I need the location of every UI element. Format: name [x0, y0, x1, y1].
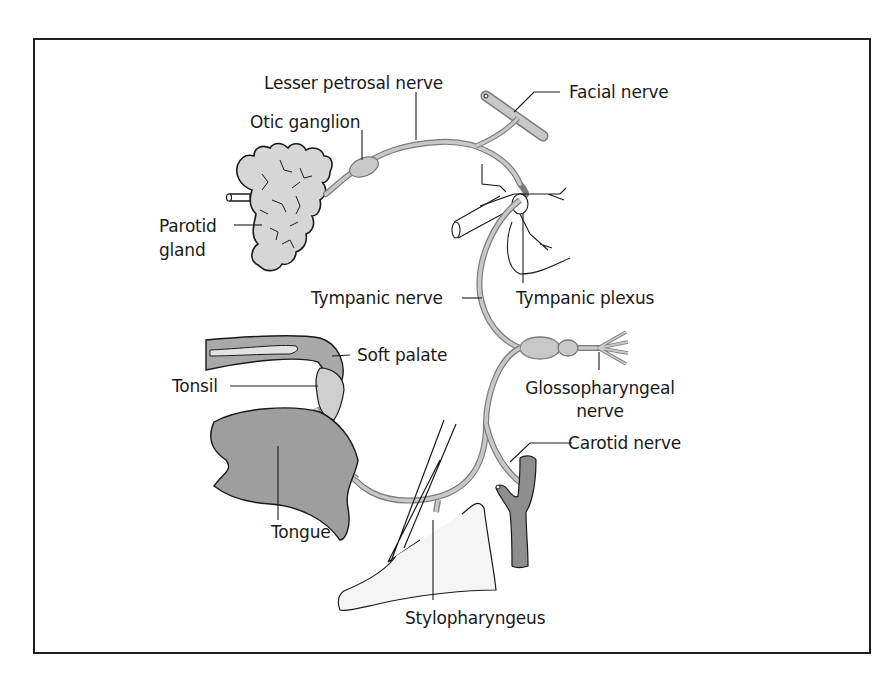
tympanic-plexus [452, 164, 570, 274]
label-tympanic-nerve: Tympanic nerve [311, 288, 443, 308]
label-soft-palate: Soft palate [357, 345, 447, 365]
lesser-petrosal-nerve [326, 142, 526, 196]
nerve-diagram [0, 0, 895, 689]
label-tongue: Tongue [271, 522, 331, 542]
tympanic-nerve [479, 200, 520, 348]
label-stylopharyngeus: Stylopharyngeus [405, 608, 545, 628]
label-glossopharyngeal-line2: nerve [512, 401, 688, 421]
stylopharyngeus [338, 420, 496, 611]
parotid-gland [227, 144, 333, 271]
label-otic-ganglion: Otic ganglion [250, 112, 360, 132]
label-lesser-petrosal-nerve: Lesser petrosal nerve [264, 73, 443, 93]
label-tympanic-plexus: Tympanic plexus [516, 288, 654, 308]
label-glossopharyngeal-line1: Glossopharyngeal [512, 378, 688, 398]
label-parotid-gland-line2: gland [159, 240, 206, 260]
carotid-artery [496, 456, 536, 568]
label-carotid-nerve: Carotid nerve [568, 433, 681, 453]
tongue [211, 408, 358, 540]
label-tonsil: Tonsil [172, 376, 218, 396]
facial-nerve [476, 94, 543, 146]
label-facial-nerve: Facial nerve [569, 82, 669, 102]
label-parotid-gland-line1: Parotid [159, 216, 217, 236]
